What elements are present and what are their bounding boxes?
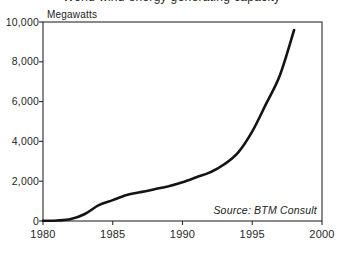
plot-frame xyxy=(43,22,322,221)
chart-figure: World wind energy generating capacity Me… xyxy=(0,0,343,260)
source-annotation: Source: BTM Consult xyxy=(213,204,317,216)
capacity-curve xyxy=(43,30,294,221)
plot-area xyxy=(0,0,343,260)
y-axis-unit-label: Megawatts xyxy=(47,9,97,20)
